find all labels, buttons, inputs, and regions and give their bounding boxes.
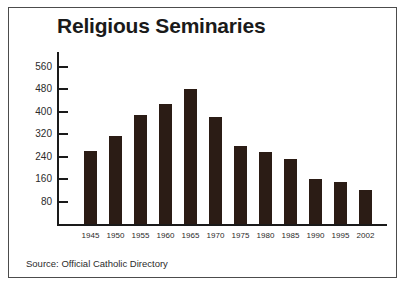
bar (134, 115, 147, 224)
x-tick-label: 2002 (351, 231, 381, 240)
bar (159, 104, 172, 224)
bar (84, 151, 97, 224)
y-tick-mark (57, 201, 68, 203)
y-tick-label: 240 (22, 152, 52, 162)
bar (184, 89, 197, 224)
y-tick-label: 320 (22, 129, 52, 139)
y-tick-mark (57, 111, 68, 113)
y-tick-label: 80 (22, 197, 52, 207)
bar (334, 182, 347, 224)
bar (234, 146, 247, 224)
y-tick-label-text: 480 (26, 84, 52, 94)
bar (109, 136, 122, 224)
y-tick-label-text: 160 (26, 174, 52, 184)
y-tick-label-text: 240 (26, 152, 52, 162)
y-tick-label-text: 560 (26, 62, 52, 72)
bar (359, 190, 372, 224)
y-tick-mark (57, 178, 68, 180)
y-tick-mark (57, 133, 68, 135)
plot-area: 80160240320400480560 1945195019551960196… (0, 0, 412, 292)
source-note: Source: Official Catholic Directory (26, 258, 168, 269)
y-tick-label: 400 (22, 107, 52, 117)
bar (284, 159, 297, 224)
chart-figure: Religious Seminaries 8016024032040048056… (0, 0, 412, 292)
y-tick-label-text: 320 (26, 129, 52, 139)
y-tick-label: 480 (22, 84, 52, 94)
y-tick-label: 160 (22, 174, 52, 184)
y-tick-mark (57, 88, 68, 90)
bar (309, 179, 322, 224)
y-tick-label-text: 400 (26, 107, 52, 117)
y-tick-mark (57, 66, 68, 68)
x-axis-line (57, 224, 387, 226)
y-tick-mark (57, 156, 68, 158)
bar (209, 117, 222, 224)
y-tick-label-text: 80 (26, 197, 52, 207)
y-tick-label: 560 (22, 62, 52, 72)
bar (259, 152, 272, 224)
